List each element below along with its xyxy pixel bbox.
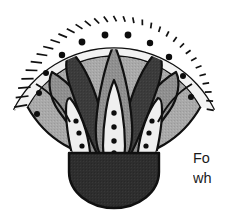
petal-dot [146, 130, 151, 135]
figure-illustration-panel: Fo wh [0, 0, 228, 215]
petal-dot [73, 118, 78, 123]
base-body [69, 153, 159, 208]
field-dot [102, 32, 109, 39]
field-dot [166, 54, 172, 60]
rounded-dark-base [69, 153, 159, 208]
petal-dot [76, 130, 81, 135]
field-dot [180, 73, 186, 79]
body-text-line-2: wh [193, 168, 228, 188]
petal-dot [149, 118, 154, 123]
field-dot [147, 40, 153, 46]
petal-dot [79, 143, 84, 148]
body-text-column: Fo wh [193, 148, 228, 188]
field-dot [79, 39, 86, 46]
petal-dot [111, 124, 116, 129]
field-dot [125, 32, 132, 39]
field-dot [36, 90, 42, 96]
field-dot [34, 111, 40, 117]
field-dot [43, 70, 49, 76]
field-dot [59, 52, 65, 58]
petal-dot [111, 138, 116, 143]
field-dot [188, 94, 194, 100]
petal-dot [111, 110, 116, 115]
body-text-line-1: Fo [193, 148, 228, 168]
petal-dot [143, 143, 148, 148]
